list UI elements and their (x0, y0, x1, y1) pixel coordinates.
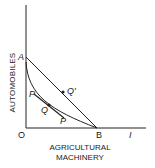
point-q-prime (61, 90, 64, 93)
label-origin: O (18, 131, 25, 140)
label-p-upper: P (29, 90, 35, 99)
x-axis-label: AGRICULTURAL MACHINERY (40, 143, 120, 163)
y-axis-label: AUTOMOBILES (8, 53, 17, 113)
label-p-lower: P (60, 117, 66, 126)
label-q: Q (41, 106, 48, 115)
label-q-prime: Q' (67, 87, 76, 96)
x-axis-label-line2: MACHINERY (40, 153, 120, 163)
label-a: A (18, 53, 24, 62)
label-b: B (96, 131, 102, 140)
label-i: I (129, 131, 132, 140)
x-axis-label-line1: AGRICULTURAL (40, 143, 120, 153)
